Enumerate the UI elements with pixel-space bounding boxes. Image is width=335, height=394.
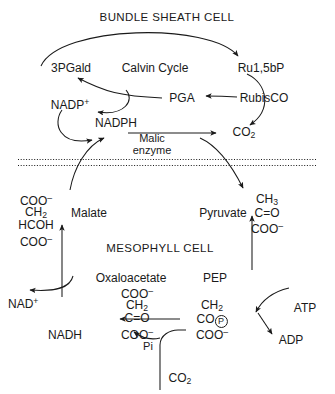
arrow-nadp-to-nadph-upper — [98, 90, 129, 113]
pyruvate-line-2: C=O — [251, 207, 283, 221]
co2-in-subscript: 2 — [187, 376, 192, 386]
malate-line-3: HCOH — [18, 219, 53, 233]
malate-line-4: COO– — [18, 233, 53, 247]
pep-line-1: CH2 — [196, 299, 228, 313]
co2-text: CO — [233, 125, 251, 139]
co2-in-text: CO — [169, 371, 187, 385]
metabolite-pep: PEP — [203, 272, 227, 284]
metabolite-3pgald: 3PGald — [51, 62, 91, 74]
cofactor-nad-oxidized-text: NAD — [8, 297, 33, 311]
pyruvate-structure: CH3 C=O COO– — [251, 193, 283, 234]
cofactor-nadph: NADPH — [95, 117, 137, 129]
malate-line-1: COO– — [18, 192, 53, 206]
metabolite-co2-mesophyll: CO2 — [169, 372, 192, 386]
cofactor-adp: ADP — [279, 334, 304, 346]
mesophyll-title: MESOPHYLL CELL — [106, 243, 213, 255]
pyruvate-line-3: COO– — [251, 220, 283, 234]
oxaloacetate-line-2: CH2 — [121, 299, 153, 313]
cofactor-nadp-charge: + — [84, 97, 89, 107]
metabolite-pyruvate: Pyruvate — [199, 207, 246, 219]
cofactor-nad-oxidized: NAD+ — [8, 297, 38, 310]
enzyme-malic-line2: enzyme — [133, 145, 172, 156]
arrow-pga-to-pgald — [78, 78, 162, 98]
arrow-malic-to-pyruvate — [200, 138, 243, 188]
arrow-rubisco-to-pga — [206, 96, 237, 97]
calvin-cycle-label: Calvin Cycle — [122, 62, 189, 74]
oxaloacetate-line-4: COO– — [121, 326, 153, 340]
cofactor-nadh: NADH — [48, 329, 82, 341]
cofactor-nadp-oxidized: NADP+ — [51, 98, 89, 111]
bundle-sheath-title: BUNDLE SHEATH CELL — [100, 12, 235, 24]
arrow-atp-to-pep — [256, 288, 289, 312]
metabolite-oxaloacetate: Oxaloacetate — [96, 272, 167, 284]
pep-line-2: COP — [196, 313, 228, 327]
enzyme-rubisco: RubisCO — [240, 92, 289, 104]
enzyme-malic-line1: Malic — [139, 133, 165, 144]
oxaloacetate-structure: COO– CH2 C=O COO– — [121, 285, 153, 339]
metabolite-pi: Pi — [143, 341, 153, 352]
cofactor-nad-charge: + — [33, 296, 38, 306]
co2-subscript: 2 — [251, 130, 256, 140]
malate-structure: COO– CH2 HCOH COO– — [18, 192, 53, 246]
cofactor-nadp-oxidized-text: NADP — [51, 98, 84, 112]
pyruvate-line-1: CH3 — [251, 193, 283, 207]
arrow-nadh-to-nad — [30, 276, 73, 290]
metabolite-ru15bp: Ru1,5bP — [238, 62, 285, 74]
metabolite-co2-bundle-sheath: CO2 — [233, 126, 256, 140]
pep-structure: CH2 COP COO– — [196, 299, 228, 340]
oxaloacetate-line-3: C=O — [121, 312, 153, 326]
pep-line-3: COO– — [196, 326, 228, 340]
cofactor-atp: ATP — [294, 302, 316, 314]
metabolite-malate: Malate — [71, 207, 107, 219]
metabolite-pga: PGA — [169, 92, 194, 104]
arrow-nadph-loop-lower — [58, 110, 92, 141]
oxaloacetate-line-1: COO– — [121, 285, 153, 299]
arrow-malate-up-to-malic — [70, 138, 104, 190]
arrow-to-adp — [258, 313, 272, 334]
